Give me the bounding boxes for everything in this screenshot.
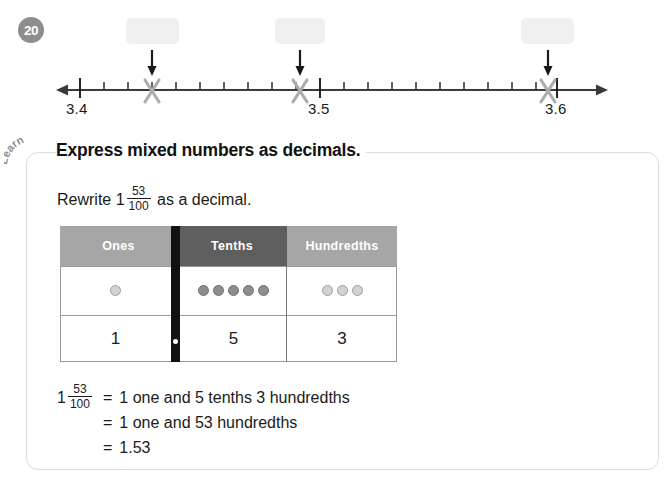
svg-text:Learn: Learn: [4, 136, 26, 165]
counter-dot: [228, 285, 239, 296]
digit-hundredths: 3: [287, 315, 397, 362]
axis-label-end: 3.6: [545, 100, 566, 117]
equals-sign-1: =: [103, 389, 112, 407]
counter-dot: [110, 285, 121, 296]
counters-tenths: [180, 266, 287, 314]
axis-label-mid: 3.5: [308, 100, 329, 117]
number-line-section: 3.4 3.5 3.6: [0, 0, 671, 130]
pointer-arrow-2: [296, 50, 305, 76]
counter-dot: [198, 285, 209, 296]
answer-row-2: = 1 one and 53 hundredths: [57, 410, 350, 435]
answer-lead-frac: 53 100: [68, 383, 92, 410]
number-line-graphic: [0, 0, 671, 130]
axis-arrow-right: [596, 85, 608, 96]
equals-sign-2: =: [103, 414, 112, 432]
header-cell-tenths: Tenths: [177, 226, 287, 266]
place-value-header-row: Ones Tenths Hundredths: [60, 226, 397, 266]
answer-lead-denominator: 100: [68, 396, 92, 410]
counters-ones: [60, 266, 171, 314]
counter-dot: [258, 285, 269, 296]
answer-text-1: 1 one and 5 tenths 3 hundredths: [119, 389, 349, 407]
pointer-arrow-1: [148, 50, 157, 76]
answer-text-2: 1 one and 53 hundredths: [119, 414, 297, 432]
counter-dot: [243, 285, 254, 296]
counter-dot: [352, 285, 363, 296]
rewrite-fraction: 53 100: [127, 185, 151, 212]
place-value-table: Ones Tenths Hundredths 1 5 3: [60, 226, 397, 362]
rewrite-numerator: 53: [130, 185, 147, 198]
pointer-arrow-3: [544, 50, 553, 76]
answer-lead-numerator: 53: [71, 383, 88, 396]
digit-ones: 1: [60, 315, 171, 362]
rewrite-suffix: as a decimal.: [157, 191, 251, 209]
rewrite-prefix: Rewrite: [57, 191, 111, 209]
answer-lead-whole: 1: [57, 389, 66, 407]
header-cell-ones: Ones: [60, 226, 177, 266]
header-cell-hundredths: Hundredths: [287, 226, 397, 266]
answer-text-3: 1.53: [119, 439, 150, 457]
answer-row-3: = 1.53: [57, 435, 350, 460]
answer-block: 1 53 100 = 1 one and 5 tenths 3 hundredt…: [57, 385, 350, 460]
axis-arrow-left: [56, 85, 68, 96]
counters-hundredths: [287, 266, 397, 314]
counter-dot: [213, 285, 224, 296]
answer-lead-fraction: 1 53 100: [57, 384, 103, 411]
counter-dot: [322, 285, 333, 296]
rewrite-whole: 1: [116, 191, 125, 209]
learn-heading: Express mixed numbers as decimals.: [56, 140, 366, 161]
axis-label-start: 3.4: [66, 100, 87, 117]
rewrite-denominator: 100: [127, 198, 151, 212]
digit-tenths: 5: [180, 315, 287, 362]
answer-row-1: 1 53 100 = 1 one and 5 tenths 3 hundredt…: [57, 385, 350, 410]
decimal-point-dot: [173, 339, 178, 344]
counter-dot: [337, 285, 348, 296]
rewrite-prompt: Rewrite 1 53 100 as a decimal.: [57, 186, 251, 213]
equals-sign-3: =: [103, 439, 112, 457]
